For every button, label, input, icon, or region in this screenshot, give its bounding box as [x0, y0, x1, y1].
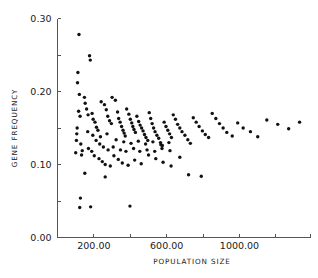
data-point: [77, 33, 80, 36]
data-point: [187, 173, 190, 176]
y-axis-title: GENE FREQUENCY: [10, 89, 19, 168]
data-point: [150, 122, 153, 125]
data-point: [109, 164, 112, 167]
data-point: [110, 122, 113, 125]
data-point: [149, 117, 152, 120]
data-point: [174, 118, 177, 121]
data-point: [140, 126, 143, 129]
data-point: [112, 154, 115, 157]
data-point: [83, 172, 86, 175]
data-point: [116, 110, 119, 113]
data-point: [78, 115, 81, 118]
data-point: [74, 151, 77, 154]
data-point: [119, 148, 122, 151]
data-point: [124, 134, 127, 137]
data-point-group: [74, 33, 301, 209]
data-point: [120, 125, 123, 128]
data-point: [154, 157, 157, 160]
data-point: [157, 137, 160, 140]
y-axis-tick-label: 0.30: [30, 13, 51, 24]
data-point: [81, 149, 84, 152]
data-point: [121, 161, 124, 164]
data-point: [76, 71, 79, 74]
data-point: [79, 196, 82, 199]
data-point: [189, 142, 192, 145]
data-point: [86, 130, 89, 133]
data-point: [110, 96, 113, 99]
data-point: [218, 122, 221, 125]
data-point: [127, 112, 130, 115]
y-axis-tick-label: 0.10: [30, 159, 51, 170]
data-point: [194, 120, 197, 123]
data-point: [144, 142, 147, 145]
data-point: [80, 153, 83, 156]
data-point: [75, 126, 78, 129]
data-point: [138, 150, 141, 153]
data-point: [122, 131, 125, 134]
data-point: [201, 129, 204, 132]
data-point: [102, 145, 105, 148]
data-point: [197, 125, 200, 128]
data-point: [98, 142, 101, 145]
data-point: [99, 100, 102, 103]
data-point: [141, 129, 144, 132]
data-point: [161, 161, 164, 164]
data-point: [178, 156, 181, 159]
data-point: [103, 163, 106, 166]
chart-canvas: 200.00600.001000.000.000.100.200.30POPUL…: [0, 0, 318, 278]
data-point: [93, 154, 96, 157]
data-point: [103, 175, 106, 178]
data-point: [75, 132, 78, 135]
data-point: [121, 128, 124, 131]
data-point: [147, 153, 150, 156]
data-point: [133, 158, 136, 161]
data-point: [236, 121, 239, 124]
data-point: [155, 134, 158, 137]
data-point: [124, 150, 127, 153]
data-point: [88, 54, 91, 57]
data-point: [94, 139, 97, 142]
data-point: [137, 139, 140, 142]
data-point: [132, 147, 135, 150]
data-point: [112, 145, 115, 148]
data-point: [108, 119, 111, 122]
data-point: [89, 205, 92, 208]
data-point: [125, 107, 128, 110]
data-point: [256, 135, 259, 138]
data-point: [97, 157, 100, 160]
data-point: [152, 126, 155, 129]
data-point: [169, 164, 172, 167]
data-point: [78, 93, 81, 96]
data-point: [298, 120, 301, 123]
data-point: [140, 162, 143, 165]
data-point: [91, 118, 94, 121]
data-point: [76, 81, 79, 84]
data-point: [99, 135, 102, 138]
data-point: [96, 128, 99, 131]
data-point: [93, 120, 96, 123]
data-point: [143, 133, 146, 136]
data-point: [122, 140, 125, 143]
x-axis-tick-label: 600.00: [150, 240, 183, 251]
data-point: [134, 131, 137, 134]
data-point: [249, 130, 252, 133]
data-point: [114, 99, 117, 102]
data-point: [130, 121, 133, 124]
x-axis-tick-label: 200.00: [77, 240, 110, 251]
data-point: [168, 132, 171, 135]
data-point: [90, 150, 93, 153]
data-point: [75, 139, 78, 142]
data-point: [265, 118, 268, 121]
data-point: [138, 123, 141, 126]
data-point: [148, 111, 151, 114]
data-point: [131, 125, 134, 128]
data-point: [178, 126, 181, 129]
data-point: [186, 138, 189, 141]
data-point: [172, 113, 175, 116]
y-axis-tick-label: 0.00: [30, 232, 51, 243]
data-point: [162, 120, 165, 123]
data-point: [167, 141, 170, 144]
data-point: [83, 96, 86, 99]
data-point: [211, 112, 214, 115]
data-point: [180, 130, 183, 133]
